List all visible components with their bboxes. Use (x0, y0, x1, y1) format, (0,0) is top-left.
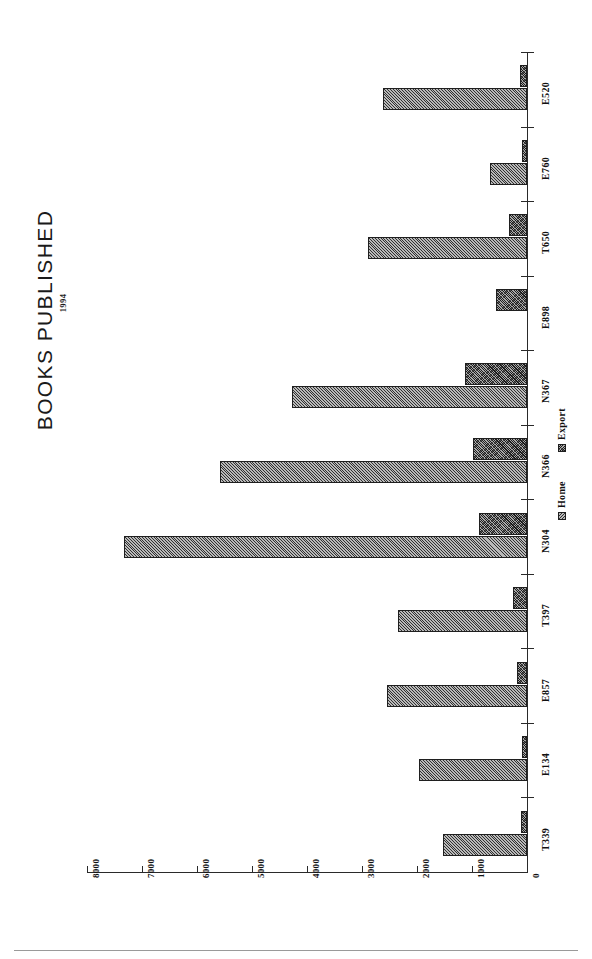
category-label: E760 (540, 157, 551, 180)
value-tick-label: 3000 (366, 859, 376, 878)
bar-home-E760 (490, 163, 527, 185)
legend-item-export[interactable]: Export (556, 408, 567, 452)
value-tick-label: 5000 (256, 859, 266, 878)
legend-item-home[interactable]: Home (556, 481, 567, 520)
category-label: E520 (540, 82, 551, 105)
category-label: N366 (540, 454, 551, 478)
bar-export-N367 (465, 363, 527, 385)
category-tick (521, 499, 534, 500)
category-tick (521, 574, 534, 575)
value-tick (472, 866, 473, 873)
legend-swatch-icon (558, 512, 566, 520)
bar-export-N366 (473, 438, 527, 460)
category-tick (521, 723, 534, 724)
category-tick (521, 350, 534, 351)
bar-home-E857 (387, 685, 527, 707)
category-tick (521, 127, 534, 128)
category-label: T397 (540, 604, 551, 627)
value-tick-label: 1000 (476, 859, 486, 878)
category-label: E857 (540, 678, 551, 701)
bar-export-E760 (522, 140, 528, 162)
bar-export-T397 (513, 587, 527, 609)
page-bottom-rule (14, 950, 578, 951)
bar-home-T650 (368, 237, 528, 259)
bar-home-E134 (419, 759, 527, 781)
category-axis-line (527, 52, 528, 872)
legend-label: Home (556, 481, 567, 508)
value-tick (197, 866, 198, 873)
category-tick (521, 52, 534, 53)
category-tick (521, 201, 534, 202)
bar-export-E134 (522, 736, 527, 758)
category-label: T339 (540, 827, 551, 850)
value-tick-label: 0 (531, 873, 541, 878)
bar-home-N366 (220, 461, 527, 483)
plot-area: 800070006000500040003000200010000 T339E1… (0, 0, 592, 959)
value-tick-label: 4000 (311, 859, 321, 878)
chart-page: BOOKS PUBLISHED 1994 8000700060005000400… (0, 0, 592, 959)
bar-export-E898 (496, 289, 527, 311)
bar-export-E520 (520, 65, 527, 87)
category-label: N304 (540, 529, 551, 553)
category-label: E898 (540, 306, 551, 329)
value-tick (527, 866, 528, 873)
value-tick-label: 7000 (146, 859, 156, 878)
bar-export-E857 (517, 662, 527, 684)
bar-export-T650 (509, 214, 527, 236)
value-tick-label: 8000 (91, 859, 101, 878)
value-tick (142, 866, 143, 873)
value-tick (252, 866, 253, 873)
category-tick (521, 425, 534, 426)
bar-home-E520 (383, 88, 527, 110)
legend-label: Export (556, 408, 567, 440)
category-label: T650 (540, 231, 551, 254)
category-label: N367 (540, 380, 551, 404)
bar-home-T397 (398, 610, 527, 632)
value-tick (307, 866, 308, 873)
bar-export-T339 (521, 811, 527, 833)
bar-home-N304 (124, 536, 527, 558)
value-tick (362, 866, 363, 873)
bar-home-N367 (292, 386, 527, 408)
value-tick-label: 2000 (421, 859, 431, 878)
category-tick (521, 648, 534, 649)
bar-export-N304 (479, 513, 527, 535)
legend-swatch-icon (558, 444, 566, 452)
value-tick-label: 6000 (201, 859, 211, 878)
category-tick (521, 797, 534, 798)
value-tick (87, 866, 88, 873)
category-tick (521, 276, 534, 277)
category-label: E134 (540, 753, 551, 776)
bar-home-T339 (443, 834, 527, 856)
value-tick (417, 866, 418, 873)
